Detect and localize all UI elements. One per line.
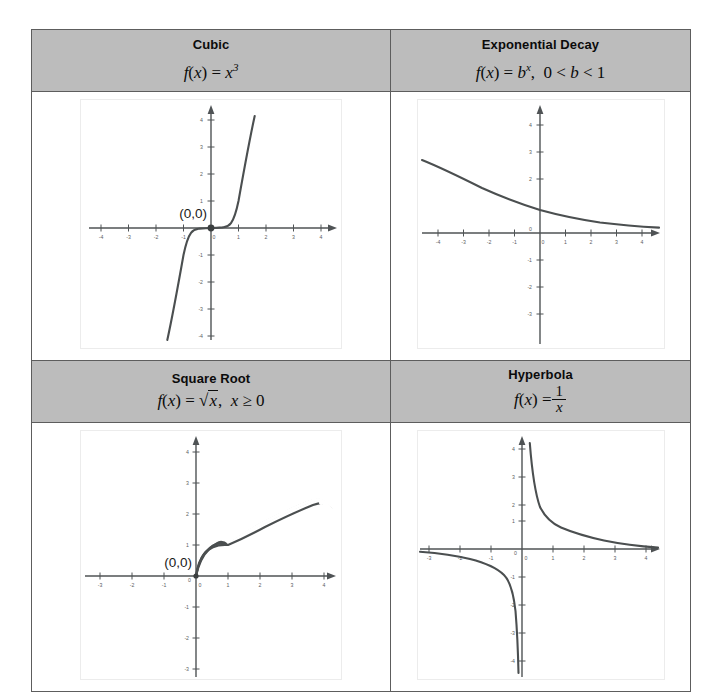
square-root-curve-final: [196, 503, 333, 576]
graph-cell-hyperbola: -3 -2 -1 0 1 2 3 4: [391, 423, 691, 692]
exponential-decay-graph-svg: -4 -3 -2 -1 0 1 2 3 4: [418, 100, 664, 348]
svg-text:0: 0: [514, 550, 517, 556]
svg-text:4: 4: [186, 449, 189, 455]
square-root-tailmask: [321, 503, 334, 513]
function-library-table: Cubic f(x) = x3 Exponential Decay f(x) =…: [31, 29, 691, 692]
cubic-graph-svg: -4 -3 -2 -1 0 1 2 3 4: [81, 100, 341, 348]
svg-text:0: 0: [199, 582, 202, 588]
table-row-headers-1: Cubic f(x) = x3 Exponential Decay f(x) =…: [32, 30, 691, 92]
svg-text:4: 4: [512, 446, 515, 452]
svg-text:-3: -3: [426, 555, 431, 561]
svg-text:-1: -1: [184, 604, 189, 610]
svg-text:-1: -1: [527, 257, 532, 263]
svg-text:-1: -1: [162, 582, 167, 588]
svg-text:-4: -4: [198, 333, 203, 339]
svg-text:-3: -3: [98, 582, 103, 588]
hyperbola-graph-panel: -3 -2 -1 0 1 2 3 4: [417, 430, 665, 680]
svg-text:3: 3: [291, 582, 294, 588]
square-root-graph-svg: -3 -2 -1 0 1 2 3 4: [81, 431, 341, 679]
cubic-graph-panel: -4 -3 -2 -1 0 1 2 3 4: [80, 99, 342, 349]
svg-text:4: 4: [640, 239, 643, 245]
svg-text:-2: -2: [130, 582, 135, 588]
svg-text:3: 3: [200, 144, 203, 150]
svg-text:3: 3: [613, 555, 616, 561]
svg-text:0: 0: [529, 226, 532, 232]
svg-text:-3: -3: [461, 239, 466, 245]
hyperbola-title: Hyperbola: [391, 366, 690, 383]
page-root: Cubic f(x) = x3 Exponential Decay f(x) =…: [0, 0, 722, 695]
svg-text:-2: -2: [486, 239, 491, 245]
graph-cell-square-root: -3 -2 -1 0 1 2 3 4: [32, 423, 391, 692]
cubic-origin-label: (0,0): [179, 206, 207, 221]
svg-text:2: 2: [259, 582, 262, 588]
svg-text:1: 1: [564, 239, 567, 245]
svg-text:-2: -2: [184, 635, 189, 641]
graph-cell-cubic: -4 -3 -2 -1 0 1 2 3 4: [32, 92, 391, 361]
svg-text:0: 0: [524, 555, 527, 561]
svg-text:-3: -3: [527, 311, 532, 317]
square-root-title: Square Root: [32, 370, 390, 387]
cubic-axes: [89, 105, 337, 340]
svg-text:1: 1: [227, 582, 230, 588]
sqrt-axes: [85, 436, 336, 677]
svg-text:1: 1: [186, 542, 189, 548]
hyp-x-ticks: -3 -2 -1 0 1 2 3 4: [426, 546, 647, 562]
header-cell-hyperbola: Hyperbola f(x) =1x: [391, 361, 691, 423]
svg-text:-3: -3: [510, 630, 515, 636]
svg-text:1: 1: [512, 518, 515, 524]
svg-text:-1: -1: [198, 252, 203, 258]
svg-text:4: 4: [644, 555, 647, 561]
svg-text:2: 2: [186, 511, 189, 517]
svg-text:-1: -1: [181, 234, 186, 240]
cubic-formula: f(x) = x3: [32, 55, 390, 85]
graph-cell-exponential-decay: -4 -3 -2 -1 0 1 2 3 4: [391, 92, 691, 361]
y-axis-arrow-icon: [536, 105, 543, 114]
svg-text:2: 2: [200, 171, 203, 177]
exponential-decay-formula: f(x) = bx, 0 < b < 1: [391, 55, 690, 85]
svg-text:4: 4: [200, 117, 203, 123]
y-axis-arrow-icon: [208, 105, 215, 114]
sqrt-x-ticks: -3 -2 -1 0 1 2 3 4: [98, 573, 326, 589]
cubic-origin-point: [208, 225, 215, 232]
hyperbola-negative-branch: [420, 552, 519, 673]
svg-text:-3: -3: [126, 234, 131, 240]
svg-text:2: 2: [265, 234, 268, 240]
y-axis-arrow-icon: [193, 436, 200, 445]
svg-text:4: 4: [529, 122, 532, 128]
svg-text:2: 2: [512, 502, 515, 508]
exponential-decay-graph-panel: -4 -3 -2 -1 0 1 2 3 4: [417, 99, 665, 349]
square-root-origin-label: (0,0): [164, 555, 192, 570]
x-axis-arrow-icon: [327, 573, 336, 580]
x-axis-arrow-icon: [328, 225, 337, 232]
svg-text:2: 2: [529, 176, 532, 182]
svg-text:-3: -3: [198, 306, 203, 312]
svg-text:0: 0: [213, 234, 216, 240]
svg-text:-2: -2: [154, 234, 159, 240]
svg-text:3: 3: [292, 234, 295, 240]
square-root-graph-panel: -3 -2 -1 0 1 2 3 4: [80, 430, 342, 680]
svg-text:1: 1: [237, 234, 240, 240]
svg-text:-3: -3: [184, 666, 189, 672]
svg-text:0: 0: [188, 577, 191, 583]
hyperbola-graph-svg: -3 -2 -1 0 1 2 3 4: [418, 431, 664, 679]
svg-text:-1: -1: [512, 239, 517, 245]
svg-text:3: 3: [615, 239, 618, 245]
svg-text:2: 2: [589, 239, 592, 245]
header-cell-exponential-decay: Exponential Decay f(x) = bx, 0 < b < 1: [391, 30, 691, 92]
svg-text:0: 0: [541, 239, 544, 245]
square-root-formula: f(x) = √x, x ≥ 0: [32, 389, 390, 413]
svg-text:-1: -1: [510, 574, 515, 580]
svg-text:4: 4: [323, 582, 326, 588]
cubic-title: Cubic: [32, 36, 390, 53]
header-cell-cubic: Cubic f(x) = x3: [32, 30, 391, 92]
x-axis-arrow-icon: [651, 230, 660, 237]
hyperbola-positive-branch: [529, 443, 657, 548]
svg-text:1: 1: [200, 198, 203, 204]
svg-text:-4: -4: [435, 239, 440, 245]
square-root-curve-main: [196, 500, 332, 576]
svg-text:3: 3: [512, 474, 515, 480]
table-row-graphs-2: -3 -2 -1 0 1 2 3 4: [32, 423, 691, 692]
svg-text:-4: -4: [510, 658, 515, 664]
square-root-origin-point: [193, 573, 198, 578]
hyperbola-formula: f(x) =1x: [391, 385, 690, 417]
